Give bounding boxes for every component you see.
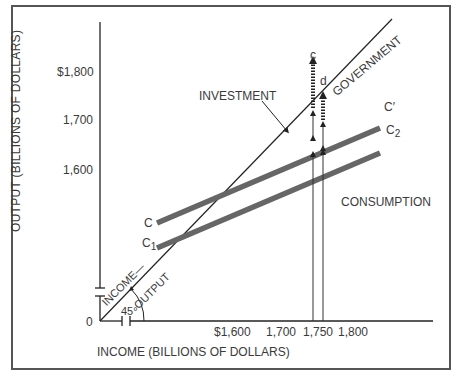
y-tick-1800: $1,800: [57, 66, 94, 78]
c2-sub: 2: [395, 128, 401, 139]
x-tick-1800: 1,800: [338, 326, 368, 338]
c-prime-label: C′: [384, 101, 395, 113]
c-label: C: [144, 217, 153, 229]
angle-label: 45°: [121, 306, 138, 317]
income-output-line: [100, 19, 392, 321]
investment-label: INVESTMENT: [199, 90, 276, 102]
c2-label: C2: [386, 124, 400, 139]
y-tick-1700: 1,700: [63, 114, 93, 126]
c1-label: C1: [142, 237, 156, 252]
c1-sub: 1: [151, 241, 157, 252]
x-tick-1750: 1,750: [303, 326, 333, 338]
c2-base: C: [386, 123, 395, 137]
x-axis-label: INCOME (BILLIONS OF DOLLARS): [97, 346, 290, 358]
consumption-label: CONSUMPTION: [341, 196, 431, 208]
c1-base: C: [142, 236, 151, 250]
x-tick-1600: $1,600: [214, 326, 251, 338]
c-small-label: c: [310, 49, 316, 61]
origin-label: 0: [86, 316, 93, 328]
d-small-label: d: [320, 75, 327, 87]
chart-plot: [0, 0, 468, 379]
y-axis-label: OUTPUT (BILLIONS OF DOLLARS): [9, 30, 23, 232]
x-tick-1700: 1,700: [266, 326, 296, 338]
y-tick-1600: 1,600: [63, 164, 93, 176]
